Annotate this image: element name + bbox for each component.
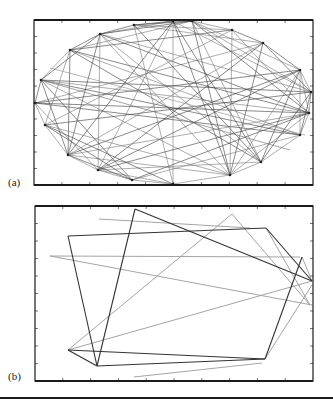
graph-edge: [41, 50, 70, 80]
graph-vertex: [299, 134, 302, 137]
dark-edge: [266, 228, 312, 281]
graph-edge: [41, 80, 311, 92]
dark-edge: [97, 359, 265, 366]
graph-vertex: [97, 169, 100, 172]
light-edge: [99, 219, 250, 228]
graph-vertex: [308, 112, 311, 115]
graph-edge: [70, 34, 100, 50]
graph-edge: [35, 80, 41, 103]
graph-vertex: [99, 33, 102, 36]
graph-edge: [173, 21, 311, 92]
graph-edge: [132, 180, 173, 184]
graph-edge: [98, 170, 132, 180]
graph-vertex: [44, 124, 47, 127]
light-edge: [134, 363, 262, 377]
dark-edge: [68, 350, 97, 366]
panel-b-label: (b): [8, 370, 21, 382]
light-edge: [50, 256, 312, 305]
graph-vertex: [40, 79, 43, 82]
graph-vertex: [299, 69, 302, 72]
graph-vertex: [310, 91, 313, 94]
graph-vertex: [67, 154, 70, 157]
graph-edge: [100, 34, 311, 92]
graph-edge: [45, 125, 132, 180]
graph-edge: [68, 155, 98, 170]
dark-edge: [265, 257, 302, 359]
graph-edge: [100, 25, 134, 34]
graph-vertex: [260, 161, 263, 164]
graph-edge: [263, 43, 300, 70]
graph-edge: [35, 103, 45, 125]
light-edge: [68, 281, 312, 350]
light-edge: [50, 256, 300, 257]
graph-edge: [45, 125, 68, 155]
graph-vertex: [69, 49, 72, 52]
graph-vertex: [131, 179, 134, 182]
graph-vertex: [133, 24, 136, 27]
dark-edge: [135, 209, 312, 281]
graph-edge: [134, 25, 232, 30]
figure-canvas: [0, 0, 333, 406]
graph-edge: [45, 50, 70, 125]
panel-a-label: (a): [8, 176, 20, 188]
graph-vertex: [229, 174, 232, 177]
light-edge: [68, 214, 232, 350]
dark-edge: [68, 228, 266, 236]
dark-edge: [68, 350, 265, 359]
light-edge: [266, 228, 310, 305]
graph-edge: [68, 34, 100, 155]
light-edge: [232, 214, 310, 305]
dark-edge: [97, 209, 135, 366]
panel-a-frame: [34, 20, 313, 185]
graph-vertex: [262, 42, 265, 45]
graph-vertex: [231, 29, 234, 32]
